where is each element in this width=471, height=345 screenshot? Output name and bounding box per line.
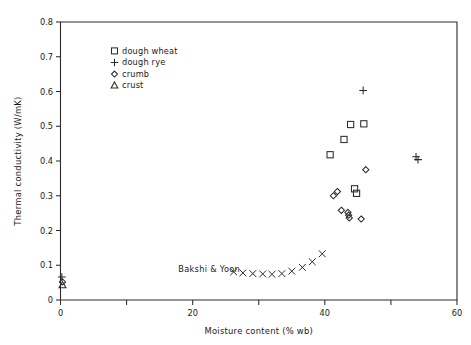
legend-item-crust: crust xyxy=(111,80,144,90)
series-dough-wheat xyxy=(327,121,367,197)
x-tick-label: 0 xyxy=(58,308,63,318)
legend-item-label: dough wheat xyxy=(122,46,178,56)
data-point-square xyxy=(353,190,359,196)
y-tick-label: 0 xyxy=(48,295,53,305)
legend-item-crumb: crumb xyxy=(112,69,150,79)
legend-item-dough-rye: dough rye xyxy=(111,57,166,67)
axis-box xyxy=(61,22,458,300)
y-tick-label: 0.1 xyxy=(40,260,53,270)
y-axis-tick-labels: 00.10.20.30.40.50.60.70.8 xyxy=(40,17,53,305)
legend-item-label: crumb xyxy=(122,69,149,79)
x-axis-ticks xyxy=(61,300,458,305)
legend-item-dough-wheat: dough wheat xyxy=(112,46,179,56)
x-axis-title: Moisture content (% wb) xyxy=(204,326,313,336)
data-point-diamond xyxy=(338,207,344,213)
data-point-square xyxy=(351,186,357,192)
plot-svg: 00.10.20.30.40.50.60.70.8 0204060 Bakshi… xyxy=(0,0,471,345)
legend-marker-plus xyxy=(111,59,119,67)
plot-frame xyxy=(61,22,458,300)
chart-annotations: Bakshi & Yoon xyxy=(178,264,240,274)
x-tick-label: 60 xyxy=(452,308,462,318)
data-point-plus xyxy=(359,87,367,95)
annotation-label: Bakshi & Yoon xyxy=(178,264,240,274)
y-tick-label: 0.6 xyxy=(40,87,53,97)
legend-item-label: dough rye xyxy=(122,57,165,67)
data-point-cross xyxy=(259,271,266,278)
y-tick-label: 0.7 xyxy=(40,52,53,62)
y-tick-label: 0.4 xyxy=(40,156,53,166)
data-point-markers xyxy=(58,87,422,288)
y-tick-label: 0.3 xyxy=(40,191,53,201)
data-point-square xyxy=(341,136,347,142)
y-tick-label: 0.2 xyxy=(40,226,53,236)
data-point-cross xyxy=(319,250,326,257)
data-point-diamond xyxy=(363,167,369,173)
scatter-plot-figure: 00.10.20.30.40.50.60.70.8 0204060 Bakshi… xyxy=(0,0,471,345)
data-point-square xyxy=(327,152,333,158)
data-point-cross xyxy=(269,271,276,278)
legend-item-label: crust xyxy=(122,80,144,90)
data-point-cross xyxy=(249,270,256,277)
data-point-cross xyxy=(239,269,246,276)
y-tick-label: 0.5 xyxy=(40,121,53,131)
x-tick-label: 40 xyxy=(320,308,330,318)
x-axis-tick-labels: 0204060 xyxy=(58,308,462,318)
data-point-cross xyxy=(278,270,285,277)
data-point-cross xyxy=(309,258,316,265)
data-point-square xyxy=(348,121,354,127)
x-tick-label: 20 xyxy=(187,308,197,318)
legend-marker-triangle xyxy=(111,82,118,88)
data-point-cross xyxy=(288,268,295,275)
series-bakshi-yoon xyxy=(230,250,325,277)
legend: dough wheatdough ryecrumbcrust xyxy=(111,46,179,91)
legend-marker-square xyxy=(112,48,118,54)
data-point-cross xyxy=(299,264,306,271)
data-point-square xyxy=(361,121,367,127)
y-axis-title: Thermal conductivity (W/mK) xyxy=(13,96,23,226)
y-axis-ticks xyxy=(56,22,61,300)
data-point-diamond xyxy=(358,216,364,222)
legend-marker-diamond xyxy=(112,71,118,77)
y-tick-label: 0.8 xyxy=(40,17,53,27)
series-dough-rye xyxy=(58,87,422,281)
